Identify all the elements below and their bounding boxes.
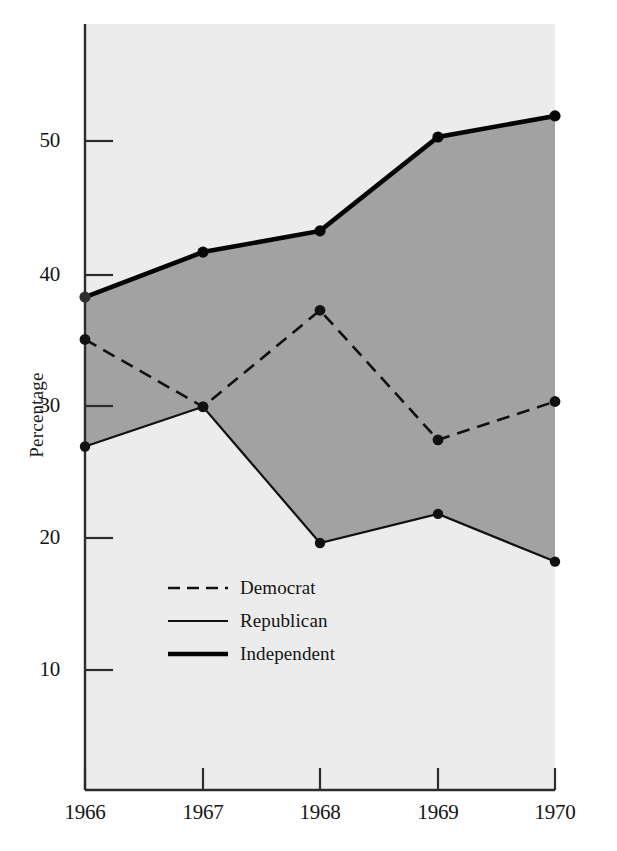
marker-independent-1970 — [549, 110, 560, 121]
marker-independent-1969 — [432, 131, 443, 142]
marker-republican-1968 — [315, 538, 325, 548]
marker-republican-1970 — [550, 556, 560, 566]
chart-figure: Percentage 50 40 30 20 10 1966 1967 1968… — [0, 0, 617, 851]
marker-republican-1966 — [80, 441, 90, 451]
marker-democrat-1970 — [550, 396, 561, 407]
y-tick-label-10: 10 — [14, 657, 60, 682]
marker-independent-1966 — [79, 292, 90, 303]
legend-label-republican: Republican — [240, 610, 328, 632]
y-tick-label-50: 50 — [14, 128, 60, 153]
marker-independent-1968 — [314, 225, 325, 236]
legend-label-independent: Independent — [240, 643, 335, 665]
y-tick-label-20: 20 — [14, 525, 60, 550]
y-tick-label-30: 30 — [14, 393, 60, 418]
marker-democrat-1968 — [315, 305, 326, 316]
marker-democrat-1967 — [198, 401, 209, 412]
marker-republican-1969 — [433, 509, 443, 519]
y-tick-label-40: 40 — [14, 262, 60, 287]
x-tick-label-1967: 1967 — [158, 800, 248, 825]
marker-democrat-1966 — [80, 334, 91, 345]
legend-label-democrat: Democrat — [240, 577, 316, 599]
x-tick-label-1970: 1970 — [510, 800, 600, 825]
x-tick-label-1969: 1969 — [393, 800, 483, 825]
x-tick-label-1966: 1966 — [40, 800, 130, 825]
marker-independent-1967 — [197, 247, 208, 258]
x-tick-label-1968: 1968 — [275, 800, 365, 825]
party-identification-line-chart — [0, 0, 617, 851]
marker-democrat-1969 — [433, 435, 444, 446]
